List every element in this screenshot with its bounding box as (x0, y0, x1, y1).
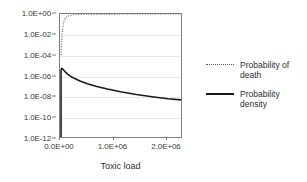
legend-dotted-line-icon (206, 64, 234, 65)
y-tick-mark (52, 117, 56, 118)
y-tick-mark (52, 54, 56, 55)
y-tick-mark (52, 33, 56, 34)
x-tick-label: 0.0E+00 (44, 142, 73, 151)
y-tick-mark (52, 138, 56, 139)
legend-label-line1: Probability of (240, 60, 306, 70)
x-tick-mark (166, 137, 167, 140)
y-tick-label: 1.0E-04 (24, 50, 51, 59)
legend-solid-line-icon (206, 93, 234, 95)
y-tick-label: 1.0E-08 (24, 92, 51, 101)
x-tick-mark (113, 137, 114, 140)
y-tick-label: 1.0E-02 (24, 29, 51, 38)
chart-plot-svg (60, 14, 181, 137)
x-tick-label: 1.0E+06 (98, 142, 127, 151)
y-tick-mark (52, 13, 56, 14)
y-tick-mark (52, 96, 56, 97)
y-tick-label: 1.0E+00 (22, 9, 51, 18)
y-axis: 1.0E+001.0E-021.0E-041.0E-061.0E-081.0E-… (0, 13, 56, 138)
y-tick-label: 1.0E-06 (24, 71, 51, 80)
x-tick-label: 2.0E+06 (151, 142, 180, 151)
series-line (61, 14, 181, 55)
x-axis: 0.0E+001.0E+062.0E+06 (59, 140, 182, 154)
x-tick-mark (59, 137, 60, 140)
x-axis-title: Toxic load (59, 161, 182, 171)
legend-item-probability-density: Probability density (206, 89, 306, 109)
chart-screenshot: 1.0E+001.0E-021.0E-041.0E-061.0E-081.0E-… (0, 0, 307, 182)
y-tick-mark (52, 75, 56, 76)
legend-label-line2: density (240, 99, 306, 109)
legend-item-probability-of-death: Probability of death (206, 60, 306, 80)
series-line (61, 68, 181, 137)
plot-area (59, 13, 182, 138)
legend-label-line1: Probability (240, 89, 306, 99)
chart-legend: Probability of death Probability density (206, 60, 306, 118)
legend-label-line2: death (240, 70, 306, 80)
y-tick-label: 1.0E-10 (24, 113, 51, 122)
